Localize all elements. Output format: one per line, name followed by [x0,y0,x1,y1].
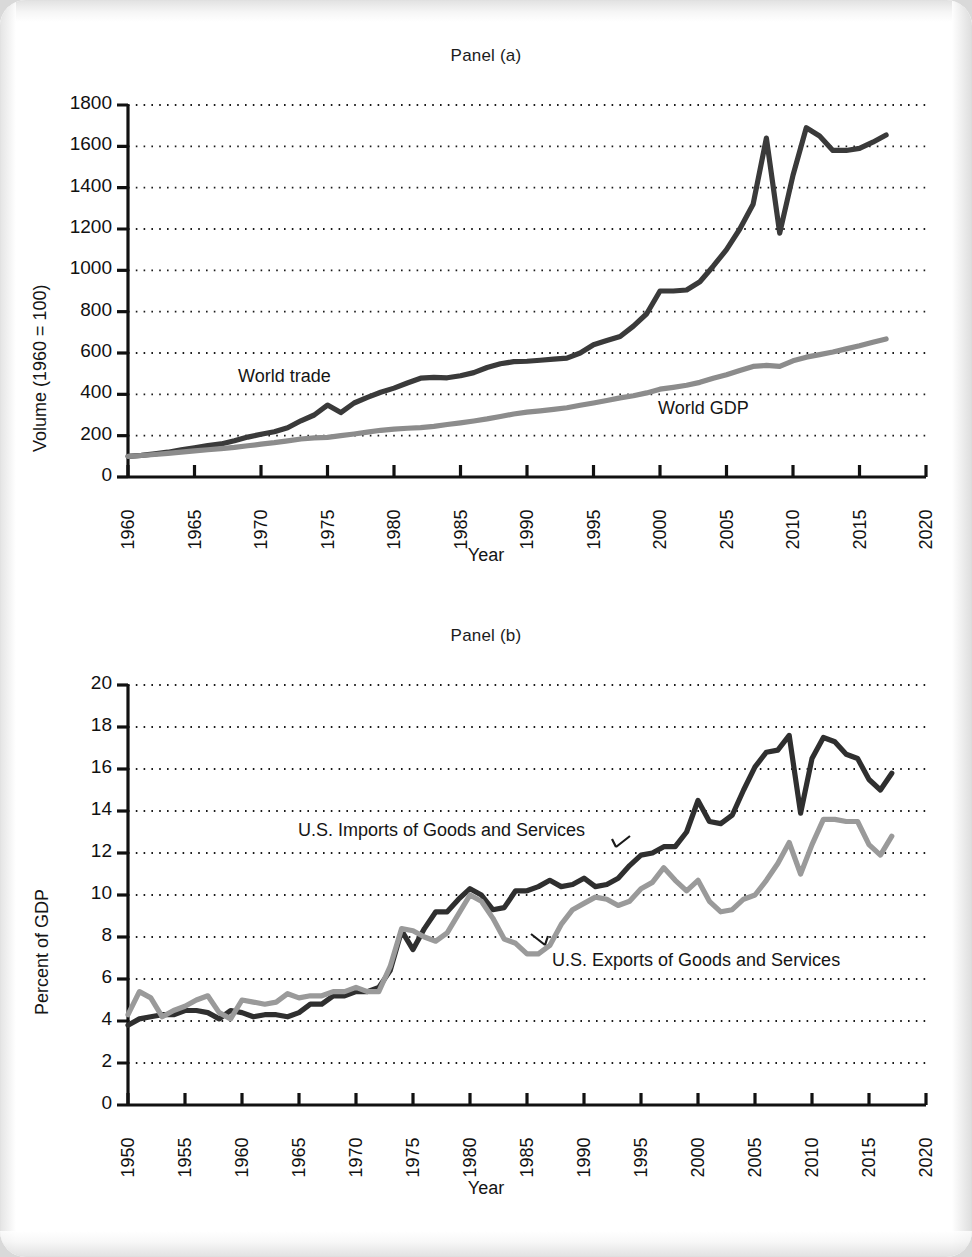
x-tick-label: 1970 [346,1126,367,1190]
x-tick-label: 1995 [583,498,604,562]
x-tick-label: 2005 [716,498,737,562]
x-tick-label: 2005 [745,1126,766,1190]
x-tick-label: 1985 [517,1126,538,1190]
page-canvas: Panel (a) Volume (1960 = 100) Year 02004… [0,0,972,1257]
panel-a-series-label-world-trade: World trade [238,366,331,387]
x-tick-label: 1980 [384,498,405,562]
x-tick-label: 1970 [251,498,272,562]
y-tick-label: 6 [101,966,112,988]
x-tick-label: 2020 [916,1126,937,1190]
x-tick-label: 1965 [184,498,205,562]
y-tick-label: 1000 [70,257,112,279]
x-tick-label: 1990 [574,1126,595,1190]
y-tick-label: 12 [91,840,112,862]
panel-b-plot [0,600,972,1257]
x-tick-label: 1990 [517,498,538,562]
y-tick-label: 1200 [70,216,112,238]
y-tick-label: 14 [91,798,112,820]
x-tick-label: 1985 [450,498,471,562]
y-tick-label: 4 [101,1008,112,1030]
y-tick-label: 18 [91,714,112,736]
x-tick-label: 1960 [118,498,139,562]
y-tick-label: 200 [80,423,112,445]
panel-b-series-label-imports: U.S. Imports of Goods and Services [298,820,585,841]
x-tick-label: 2015 [849,498,870,562]
x-tick-label: 1965 [289,1126,310,1190]
panel-b: Panel (b) Percent of GDP Year 0246810121… [0,600,972,1257]
panel-b-x-axis-label: Year [0,1178,972,1199]
x-tick-label: 1955 [175,1126,196,1190]
x-tick-label: 2000 [650,498,671,562]
x-tick-label: 2020 [916,498,937,562]
y-tick-label: 20 [91,672,112,694]
panel-a-series-label-world-gdp: World GDP [658,398,749,419]
y-tick-label: 400 [80,381,112,403]
x-tick-label: 2015 [859,1126,880,1190]
x-tick-label: 1975 [403,1126,424,1190]
y-tick-label: 1400 [70,175,112,197]
y-tick-label: 800 [80,299,112,321]
x-tick-label: 1975 [317,498,338,562]
y-tick-label: 16 [91,756,112,778]
x-tick-label: 2010 [802,1126,823,1190]
y-tick-label: 1800 [70,92,112,114]
x-tick-label: 1960 [232,1126,253,1190]
x-tick-label: 1980 [460,1126,481,1190]
x-tick-label: 1950 [118,1126,139,1190]
panel-a: Panel (a) Volume (1960 = 100) Year 02004… [0,0,972,600]
x-tick-label: 2010 [783,498,804,562]
y-tick-label: 0 [101,1092,112,1114]
x-tick-label: 1995 [631,1126,652,1190]
y-tick-label: 1600 [70,133,112,155]
panel-a-x-axis-label: Year [0,545,972,566]
panel-a-y-axis-label: Volume (1960 = 100) [30,284,51,452]
y-tick-label: 10 [91,882,112,904]
y-tick-label: 600 [80,340,112,362]
y-tick-label: 8 [101,924,112,946]
y-tick-label: 2 [101,1050,112,1072]
panel-a-plot [0,0,972,600]
y-tick-label: 0 [101,464,112,486]
panel-b-series-label-exports: U.S. Exports of Goods and Services [552,950,840,971]
panel-b-y-axis-label: Percent of GDP [32,889,53,1015]
x-tick-label: 2000 [688,1126,709,1190]
